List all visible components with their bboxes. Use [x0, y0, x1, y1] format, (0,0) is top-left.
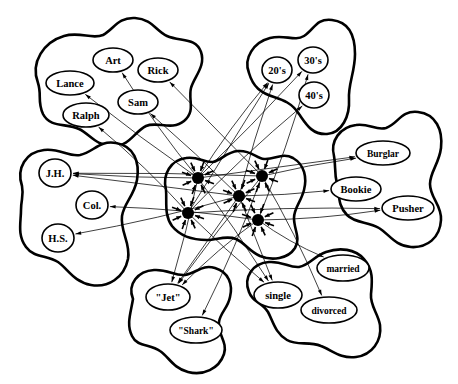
unit-label: married [326, 264, 360, 274]
iac-network-diagram: ArtRickLanceSamRalph20's30's40'sBurglarB… [0, 0, 458, 384]
unit-label: 20's [268, 65, 286, 76]
unit-label: 30's [304, 55, 322, 66]
unit-label: Lance [56, 78, 84, 89]
unit-label: Col. [83, 200, 102, 211]
instance-unit[interactable] [192, 172, 204, 184]
unit-label: "Shark" [178, 326, 213, 336]
unit-label: 40's [305, 90, 323, 101]
instance-unit[interactable] [252, 214, 264, 226]
unit-label: Pusher [392, 203, 424, 214]
diagram-canvas: ArtRickLanceSamRalph20's30's40'sBurglarB… [0, 0, 458, 384]
unit-label: H.S. [48, 233, 68, 244]
edge-arrowhead [323, 189, 329, 193]
unit-label: divorced [311, 306, 347, 316]
instance-unit[interactable] [256, 170, 268, 182]
instance-unit[interactable] [233, 190, 245, 202]
unit-label: "Jet" [155, 292, 180, 303]
unit-label: Sam [128, 97, 148, 108]
unit-label: Burglar [367, 149, 400, 159]
unit-label: J.H. [46, 168, 65, 179]
unit-label: Art [105, 55, 121, 66]
unit-label: Ralph [72, 110, 100, 121]
instance-unit[interactable] [182, 207, 194, 219]
unit-label: Rick [148, 65, 169, 76]
unit-label: single [265, 290, 291, 301]
unit-label: Bookie [341, 184, 372, 195]
